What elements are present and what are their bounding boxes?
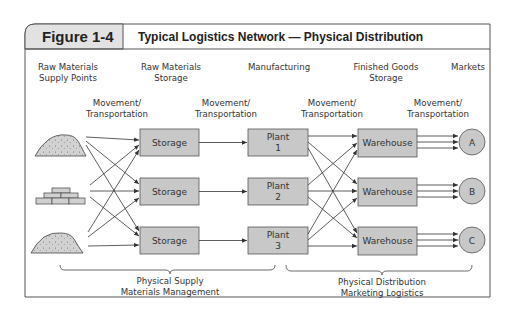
movement-label-4-line1: Movement/ (414, 98, 463, 108)
svg-text:Warehouse: Warehouse (362, 138, 412, 148)
svg-text:Storage: Storage (152, 187, 188, 197)
svg-text:Warehouse: Warehouse (362, 187, 412, 197)
movement-label-3-line2: Transportation (300, 109, 363, 119)
svg-text:1: 1 (275, 143, 281, 153)
figure-title: Typical Logistics Network — Physical Dis… (138, 30, 423, 44)
movement-label-2-line1: Movement/ (202, 98, 251, 108)
bracket-label-line1: Physical Distribution (338, 277, 426, 287)
svg-text:Plant: Plant (267, 132, 290, 142)
movement-label-1-line1: Movement/ (93, 98, 142, 108)
svg-text:3: 3 (275, 241, 281, 251)
market-node: B (459, 178, 485, 204)
stage-finished-goods-line2: Storage (369, 73, 403, 83)
svg-text:2: 2 (275, 192, 281, 202)
svg-text:A: A (469, 138, 476, 148)
plant-node: Plant 3 (248, 227, 308, 254)
plant-node: Plant 1 (248, 129, 308, 156)
svg-text:C: C (469, 236, 475, 246)
svg-text:B: B (469, 187, 475, 197)
storage-node: Storage (140, 178, 199, 205)
logistics-network-diagram: Figure 1-4 Typical Logistics Network — P… (0, 0, 514, 327)
plant-node: Plant 2 (248, 178, 308, 205)
movement-label-4-line2: Transportation (406, 109, 469, 119)
stage-raw-storage-line1: Raw Materials (141, 62, 202, 72)
stage-raw-supply-line2: Supply Points (39, 73, 97, 83)
stage-markets: Markets (451, 62, 486, 72)
market-node: A (459, 129, 485, 155)
market-node: C (459, 227, 485, 253)
svg-text:Storage: Storage (152, 138, 188, 148)
bracket-label-line2: Marketing Logistics (341, 288, 424, 298)
storage-node: Storage (140, 227, 199, 254)
bracket-label-line2: Materials Management (121, 287, 220, 297)
movement-label-1-line2: Transportation (85, 109, 148, 119)
stage-raw-storage-line2: Storage (154, 73, 188, 83)
movement-label-3-line1: Movement/ (308, 98, 357, 108)
movement-label-2-line2: Transportation (194, 109, 257, 119)
storage-node: Storage (140, 129, 199, 156)
svg-text:Storage: Storage (152, 236, 188, 246)
bracket-label-line1: Physical Supply (137, 276, 204, 286)
warehouse-node: Warehouse (358, 178, 417, 206)
svg-text:Warehouse: Warehouse (362, 236, 412, 246)
stage-raw-supply-line1: Raw Materials (38, 62, 99, 72)
stage-finished-goods-line1: Finished Goods (353, 62, 419, 72)
warehouse-node: Warehouse (358, 227, 417, 255)
warehouse-node: Warehouse (358, 129, 417, 157)
svg-text:Plant: Plant (267, 181, 290, 191)
svg-text:Plant: Plant (267, 230, 290, 240)
figure-number: Figure 1-4 (42, 28, 114, 45)
stage-manufacturing: Manufacturing (248, 62, 310, 72)
